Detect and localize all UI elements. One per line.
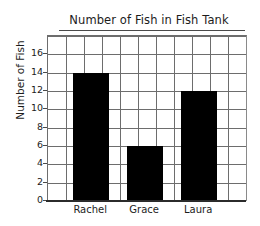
title-underline-divider <box>59 30 245 31</box>
y-axis-tick-label: 12 <box>17 85 43 95</box>
y-axis-tick-labels: 0246810121416 <box>13 35 43 200</box>
gridline-vertical <box>228 36 229 201</box>
gridline-vertical <box>66 36 67 201</box>
plot-area <box>47 35 247 201</box>
x-axis-line <box>46 200 246 202</box>
y-axis-tick-label: 14 <box>17 67 43 77</box>
bar <box>181 91 217 201</box>
y-axis-tick-label: 10 <box>17 103 43 113</box>
y-axis-tick-label: 6 <box>17 140 43 150</box>
bar <box>73 73 109 201</box>
x-axis-tick-label: Grace <box>114 204 174 215</box>
y-axis-tick-label: 4 <box>17 158 43 168</box>
x-axis-tick-label: Rachel <box>60 204 120 215</box>
y-axis-tick-label: 2 <box>17 177 43 187</box>
gridline-vertical <box>174 36 175 201</box>
bar-chart: Number of Fish in Fish Tank Number of Fi… <box>0 0 260 226</box>
gridline-horizontal <box>48 54 246 55</box>
gridline-horizontal <box>48 36 246 37</box>
y-axis-tick-label: 16 <box>17 48 43 58</box>
chart-title: Number of Fish in Fish Tank <box>50 13 248 27</box>
x-axis-tick-label: Laura <box>168 204 228 215</box>
y-axis-tick-label: 0 <box>17 195 43 205</box>
gridline-vertical <box>120 36 121 201</box>
y-axis-tick-label: 8 <box>17 122 43 132</box>
bar <box>127 146 163 201</box>
